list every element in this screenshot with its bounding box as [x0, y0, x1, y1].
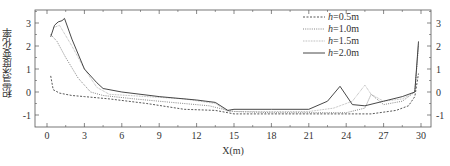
y-tick-label-left: 2 [26, 41, 31, 52]
y-tick-label-right: -1 [436, 110, 444, 121]
x-tick-label: 6 [119, 130, 124, 141]
x-tick-label: 27 [379, 130, 389, 141]
series-line-h-0-5m [51, 74, 419, 114]
legend-item-label: h=1.5m [328, 35, 359, 46]
y-tick-label-left: 3 [26, 18, 31, 29]
y-tick-label-left: 1 [26, 64, 31, 75]
line-chart: 036912151821242730-1-100112233X(m)h=0.5m… [0, 0, 450, 166]
y-tick-label-left: 0 [26, 87, 31, 98]
x-axis-title: X(m) [222, 145, 244, 157]
x-tick-label: 0 [45, 130, 50, 141]
x-tick-label: 15 [229, 130, 239, 141]
legend-item-label: h=2.0m [328, 47, 359, 58]
x-tick-label: 30 [416, 130, 426, 141]
series-line-h-1-0m [51, 35, 419, 113]
legend-item-label: h=0.5m [328, 11, 359, 22]
y-tick-label-right: 1 [436, 64, 441, 75]
y-tick-label-right: 0 [436, 87, 441, 98]
legend-item-label: h=1.0m [328, 23, 359, 34]
x-tick-label: 21 [304, 130, 314, 141]
x-tick-label: 9 [157, 130, 162, 141]
series-line-h-2-0m [51, 18, 419, 110]
y-tick-label-right: 2 [436, 41, 441, 52]
x-tick-label: 12 [192, 130, 202, 141]
x-tick-label: 18 [266, 130, 276, 141]
y-tick-label-left: -1 [23, 110, 31, 121]
y-tick-label-right: 3 [436, 18, 441, 29]
x-tick-label: 24 [341, 130, 351, 141]
x-tick-label: 3 [82, 130, 87, 141]
